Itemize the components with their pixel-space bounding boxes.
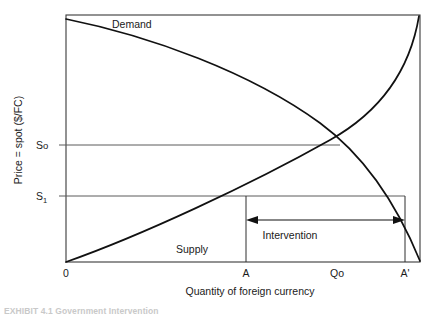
plot-background bbox=[66, 15, 420, 262]
y-tick-label-s1: S1 bbox=[36, 190, 47, 205]
y-tick-so-subscript: o bbox=[43, 140, 48, 151]
x-tick-label-zero: 0 bbox=[63, 267, 69, 279]
x-tick-label-a-prime: A' bbox=[400, 267, 409, 279]
y-axis-title: Price = spot ($/FC) bbox=[12, 96, 24, 184]
y-tick-label-so: So bbox=[36, 139, 48, 151]
supply-curve-label: Supply bbox=[176, 243, 209, 255]
y-tick-s1-subscript: 1 bbox=[43, 196, 47, 205]
figure-root: Demand Supply Intervention So S1 0 A Qo … bbox=[0, 0, 434, 318]
supply-demand-chart: Demand Supply Intervention So S1 0 A Qo … bbox=[0, 0, 434, 318]
intervention-label: Intervention bbox=[263, 229, 318, 241]
x-tick-label-a: A bbox=[242, 267, 249, 279]
y-tick-so-base: S bbox=[36, 139, 43, 151]
demand-curve-label: Demand bbox=[112, 18, 152, 30]
y-tick-s1-base: S bbox=[36, 190, 43, 202]
x-axis-title: Quantity of foreign currency bbox=[186, 285, 316, 297]
x-tick-label-qo: Qo bbox=[330, 267, 344, 279]
